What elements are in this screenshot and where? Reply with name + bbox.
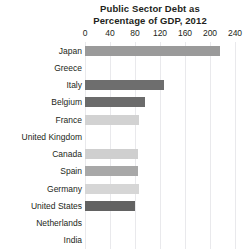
- x-axis-tick-labels: 04080120160200240: [0, 28, 248, 41]
- category-label-belgium: Belgium: [51, 97, 82, 107]
- x-tick-label-200: 200: [197, 28, 223, 39]
- x-tick-label-160: 160: [172, 28, 198, 39]
- bar-row: Germany: [0, 180, 248, 197]
- bar-japan: [85, 46, 220, 56]
- bar-italy: [85, 80, 164, 90]
- category-label-germany: Germany: [47, 184, 82, 194]
- bar-row: Spain: [0, 163, 248, 180]
- category-label-india: India: [64, 235, 82, 245]
- bar-row: Japan: [0, 42, 248, 59]
- bar-germany: [85, 184, 139, 194]
- chart-title: Public Sector Debt as Percentage of GDP,…: [60, 3, 240, 26]
- chart-title-line-2: Percentage of GDP, 2012: [60, 15, 240, 27]
- category-label-spain: Spain: [60, 166, 82, 176]
- x-tick-label-0: 0: [72, 28, 98, 39]
- category-label-greece: Greece: [54, 63, 82, 73]
- x-tick-label-120: 120: [147, 28, 173, 39]
- bar-row: Belgium: [0, 94, 248, 111]
- bar-france: [85, 115, 139, 125]
- bar-row: France: [0, 111, 248, 128]
- bar-canada: [85, 149, 138, 159]
- bar-belgium: [85, 97, 145, 107]
- bar-row: Netherlands: [0, 215, 248, 232]
- bar-row: India: [0, 232, 248, 249]
- bar-row: United Kingdom: [0, 128, 248, 145]
- bar-row: Canada: [0, 146, 248, 163]
- category-label-canada: Canada: [52, 149, 82, 159]
- category-label-france: France: [56, 115, 82, 125]
- bar-row: Greece: [0, 59, 248, 76]
- category-label-united-states: United States: [31, 201, 82, 211]
- bar-row: Italy: [0, 77, 248, 94]
- category-label-united-kingdom: United Kingdom: [22, 132, 82, 142]
- x-tick-label-80: 80: [122, 28, 148, 39]
- category-label-japan: Japan: [59, 46, 82, 56]
- bar-united-states: [85, 201, 135, 211]
- category-label-netherlands: Netherlands: [36, 218, 82, 228]
- bar-rows: JapanGreeceItalyBelgiumFranceUnited King…: [0, 42, 248, 249]
- chart-title-line-1: Public Sector Debt as: [60, 3, 240, 15]
- category-label-italy: Italy: [66, 80, 82, 90]
- bar-chart: Public Sector Debt as Percentage of GDP,…: [0, 0, 248, 249]
- x-tick-label-40: 40: [97, 28, 123, 39]
- x-tick-label-240: 240: [222, 28, 248, 39]
- bar-spain: [85, 166, 138, 176]
- bar-row: United States: [0, 197, 248, 214]
